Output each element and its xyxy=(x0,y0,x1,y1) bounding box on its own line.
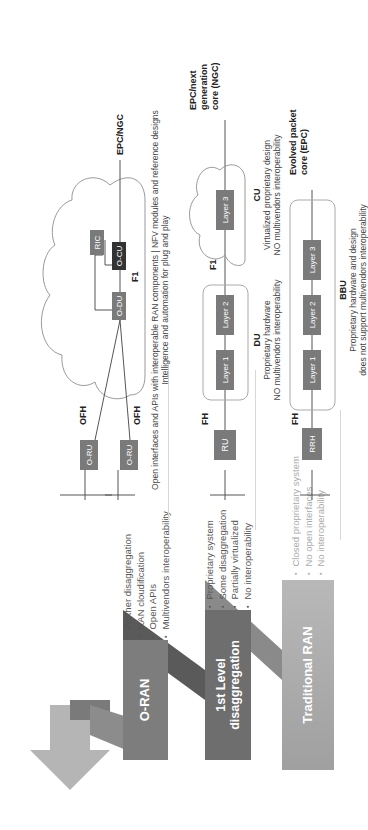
du-caption: DU Proprietary hardware NO multivendors … xyxy=(252,270,282,410)
label-ofh-2: OFH xyxy=(132,406,142,425)
label-core-epc: Evolved packet core (EPC) xyxy=(288,109,310,175)
node-label: Layer 2 xyxy=(221,302,230,329)
caption-line: Open interfaces and APIs with interopera… xyxy=(150,110,160,490)
bbu-caption: BBU Proprietary hardware and design does… xyxy=(338,190,368,390)
caption-line: Virtualized proprietary design xyxy=(262,120,272,270)
label-line: core (EPC) xyxy=(299,109,310,175)
label-line: generation xyxy=(199,62,210,110)
node-layer-3: Layer 3 xyxy=(303,240,321,280)
bbu-title: BBU xyxy=(338,190,348,390)
node-label: O-DU xyxy=(115,296,124,316)
node-o-du: O-DU xyxy=(112,292,126,320)
caption-line: NO multivendors interoperability xyxy=(272,120,282,270)
label-fh: FH xyxy=(200,413,210,425)
stair-traditional-ran: Traditional RAN xyxy=(282,580,334,770)
bullet: Multivendors interoperability xyxy=(160,511,173,638)
bullet: No interoperability xyxy=(242,510,255,608)
caption-line: NO multivendors interoperability xyxy=(272,270,282,410)
node-label: O-RU xyxy=(85,445,94,465)
stair-first-level: 1st Level disaggregation xyxy=(205,610,251,760)
bullet: Some disaggregation xyxy=(217,510,230,608)
node-label: Layer 2 xyxy=(308,302,317,329)
caption-line: Intelligence and automation for plug and… xyxy=(160,110,170,490)
node-label: RIC xyxy=(93,236,102,250)
label-fh: FH xyxy=(290,413,300,425)
label-line: EPC/next xyxy=(188,62,199,110)
node-layer-2: Layer 2 xyxy=(216,295,234,335)
du-title: DU xyxy=(252,270,262,410)
node-label: Layer 3 xyxy=(308,247,317,274)
stair-traditional-ran-label: Traditional RAN xyxy=(301,626,316,724)
node-label: Layer 1 xyxy=(308,357,317,384)
first-level-bullets: Proprietary system Some disaggregation P… xyxy=(204,510,254,608)
stair-oran-label: O-RAN xyxy=(138,679,153,722)
caption-line: Proprietary hardware xyxy=(262,270,272,410)
bullet: Proprietary system xyxy=(204,510,217,608)
caption-line: Proprietary hardware and design xyxy=(348,190,358,390)
node-layer-2: Layer 2 xyxy=(303,295,321,335)
label-core: EPC/NGC xyxy=(115,114,125,155)
node-label: O-RU xyxy=(125,445,134,465)
caption-line: does not support multivendors interopera… xyxy=(358,190,368,390)
label-core-ngc: EPC/next generation core (NGC) xyxy=(188,62,221,110)
stair-oran: O-RAN xyxy=(123,640,168,760)
stair-first-level-label: 1st Level disaggregation xyxy=(214,630,243,740)
node-ru: RU xyxy=(214,430,236,460)
node-label: Layer 3 xyxy=(221,197,230,224)
node-layer-3: Layer 3 xyxy=(216,190,234,230)
bullet: RAN cloudification xyxy=(135,511,148,638)
label-line: core (NGC) xyxy=(210,62,221,110)
node-layer-1: Layer 1 xyxy=(216,350,234,390)
node-label: RU xyxy=(220,439,230,452)
oran-caption: Open interfaces and APIs with interopera… xyxy=(150,110,170,490)
label-f1: F1 xyxy=(130,271,140,282)
node-o-ru-2: O-RU xyxy=(120,440,138,470)
bullet: Further disaggregation xyxy=(122,511,135,638)
oran-bullets: Further disaggregation RAN cloudificatio… xyxy=(122,511,172,638)
node-label: O-CU xyxy=(115,246,124,266)
cu-title: CU xyxy=(252,120,262,270)
cu-caption: CU Virtualized proprietary design NO mul… xyxy=(252,120,282,270)
label-line: Evolved packet xyxy=(288,109,299,175)
node-label: RRH xyxy=(308,435,317,452)
node-label: Layer 1 xyxy=(221,357,230,384)
node-ric: RIC xyxy=(90,230,104,255)
label-f1: F1 xyxy=(208,259,218,270)
node-o-ru-1: O-RU xyxy=(80,440,98,470)
bullet: Partially virtualized xyxy=(229,510,242,608)
node-o-cu: O-CU xyxy=(112,242,126,270)
bullet: Open APIs xyxy=(147,511,160,638)
node-layer-1: Layer 1 xyxy=(303,350,321,390)
label-ofh-1: OFH xyxy=(78,406,88,425)
node-rrh: RRH xyxy=(302,428,322,460)
